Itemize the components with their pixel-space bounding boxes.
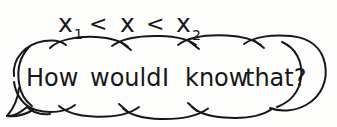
inequality-x1-subscript: 1 [74, 26, 83, 42]
bubble-arc-top-4 [244, 35, 325, 64]
cross-tick-top-3 [255, 41, 264, 48]
inequality-x2-subscript: 2 [192, 27, 201, 43]
inequality-less-than-2: < [146, 11, 164, 36]
cross-tick-top-1 [122, 43, 131, 50]
inequality-x-base: x [120, 9, 135, 38]
handdrawn-illustration: x 1 < x < x 2 How would I know that? [0, 0, 337, 127]
bubble-word-would: would [90, 64, 161, 92]
cross-tick-bottom-1 [119, 104, 128, 112]
inequality-expression: x 1 < x < x 2 [58, 9, 201, 43]
bubble-word-that: that? [245, 64, 306, 92]
bubble-text: How would I know that? [26, 64, 306, 92]
inequality-x2-base: x [176, 9, 191, 38]
inequality-x1-base: x [58, 9, 73, 38]
sketch-canvas: x 1 < x < x 2 How would I know that? [0, 0, 337, 127]
inequality-less-than-1: < [89, 11, 107, 36]
cross-tick-bottom-2 [188, 103, 197, 111]
bubble-word-how: How [26, 64, 78, 92]
bubble-word-know: know [185, 64, 248, 92]
bubble-word-i: I [162, 64, 169, 92]
bubble-arc-bottom-4 [192, 107, 272, 118]
